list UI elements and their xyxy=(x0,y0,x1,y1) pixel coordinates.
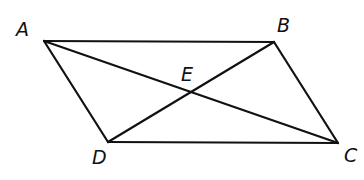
diagonal-bd xyxy=(108,42,274,142)
intersection-label-e: E xyxy=(181,65,193,84)
vertex-label-a: A xyxy=(16,20,29,39)
segment-da xyxy=(44,41,108,142)
vertex-label-c: C xyxy=(344,146,357,165)
segment-cd xyxy=(108,142,338,143)
parallelogram-figure xyxy=(0,0,364,180)
diagram-canvas: A B C D E xyxy=(0,0,364,180)
vertex-label-b: B xyxy=(277,16,290,35)
segment-ab xyxy=(44,41,274,42)
segment-bc xyxy=(274,42,338,143)
vertex-label-d: D xyxy=(92,148,107,167)
